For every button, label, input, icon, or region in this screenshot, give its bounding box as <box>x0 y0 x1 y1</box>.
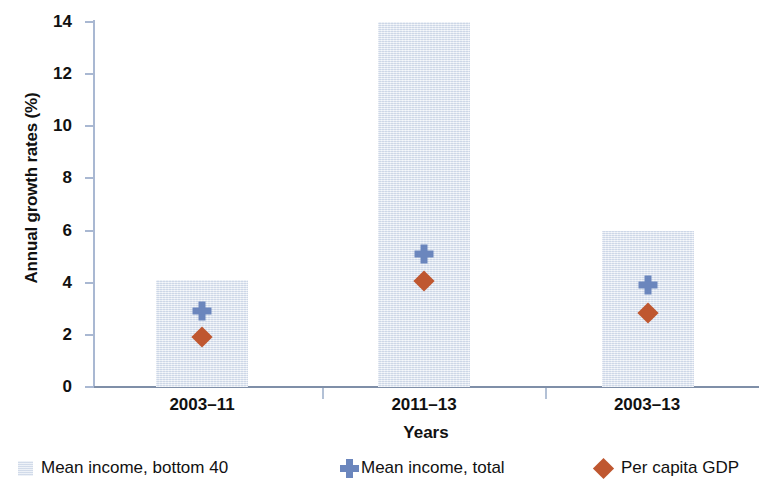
y-axis-tick <box>85 177 94 179</box>
y-axis-tick <box>85 73 94 75</box>
cross-marker-icon <box>639 276 658 295</box>
chart-legend: Mean income, bottom 40 Mean income, tota… <box>0 458 759 491</box>
y-tick-label: 4 <box>0 274 72 291</box>
x-tick-label-0: 2003–11 <box>102 395 302 415</box>
x-tick-label-2: 2003–13 <box>547 395 747 415</box>
y-tick-label: 8 <box>0 169 72 186</box>
legend-item-mean-income-total: Mean income, total <box>340 458 505 478</box>
growth-rates-chart: Annual growth rates (%) 02468101214 2003… <box>0 0 759 491</box>
y-tick-label: 12 <box>0 65 72 82</box>
y-axis-tick <box>85 21 94 23</box>
diamond-marker-icon <box>593 457 614 478</box>
y-axis-tick <box>85 282 94 284</box>
bar-2011–13 <box>378 22 470 387</box>
x-tick-label-1: 2011–13 <box>324 395 524 415</box>
cross-marker-icon <box>415 245 434 264</box>
cross-marker-icon <box>340 459 359 478</box>
y-tick-label: 14 <box>0 13 72 30</box>
y-tick-label: 0 <box>0 378 72 395</box>
x-axis-title: Years <box>93 423 759 443</box>
legend-item-per-capita-gdp: Per capita GDP <box>594 458 739 478</box>
y-axis-tick <box>85 386 94 388</box>
legend-label-1: Mean income, total <box>361 458 505 478</box>
y-axis-title: Annual growth rates (%) <box>22 38 42 338</box>
legend-label-0: Mean income, bottom 40 <box>41 458 228 478</box>
y-axis-tick <box>85 125 94 127</box>
y-tick-label: 2 <box>0 326 72 343</box>
y-tick-label: 10 <box>0 117 72 134</box>
cross-marker-icon <box>193 302 212 321</box>
y-axis-tick <box>85 230 94 232</box>
legend-item-mean-income-bottom-40: Mean income, bottom 40 <box>18 458 228 478</box>
y-axis-tick <box>85 334 94 336</box>
y-axis-line <box>93 20 95 388</box>
legend-label-2: Per capita GDP <box>621 458 739 478</box>
square-swatch-icon <box>18 461 33 476</box>
y-tick-label: 6 <box>0 222 72 239</box>
